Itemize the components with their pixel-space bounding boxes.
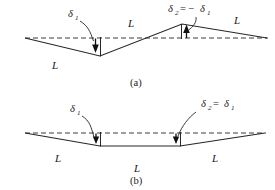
panel-a-delta2-subscript: 2 — [175, 9, 179, 17]
panel-b-caption: (b) — [130, 175, 143, 187]
panel-b-delta1-subscript: 1 — [77, 109, 81, 117]
panel-b-span-label-2: L — [133, 162, 140, 174]
panel-b-delta2-rhs-subscript: 1 — [231, 104, 235, 112]
panel-a-span-label-3: L — [233, 14, 240, 26]
panel-b-delta2-relation-operator: = — [213, 98, 219, 109]
panel-a-delta2-rhs-subscript: 1 — [207, 9, 211, 17]
engineering-beam-deflection-figure: δ 1 δ 2 = − δ 1 L L L (a) — [0, 0, 275, 190]
panel-a-delta1-subscript: 1 — [75, 14, 79, 22]
panel-a-span-label-1: L — [51, 59, 58, 71]
panel-a-delta2-relation-operator: = − — [180, 3, 195, 14]
panel-b-span-label-1: L — [54, 152, 61, 164]
panel-a-caption: (a) — [130, 77, 142, 89]
panel-b-delta2-subscript: 2 — [208, 104, 212, 112]
panel-b-span-label-3: L — [211, 152, 218, 164]
panel-a-span-label-2: L — [127, 17, 134, 29]
figure-container: δ 1 δ 2 = − δ 1 L L L (a) — [0, 0, 275, 190]
